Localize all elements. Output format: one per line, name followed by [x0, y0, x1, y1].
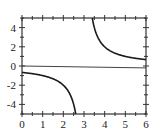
- y-tick-label: 2: [11, 41, 17, 53]
- x-tick-label: 0: [19, 118, 25, 130]
- x-tick-label: 3: [81, 118, 87, 130]
- zero-line: [22, 66, 146, 68]
- x-tick-label: 4: [102, 118, 108, 130]
- x-tick-label: 2: [61, 118, 67, 130]
- y-tick-label: -4: [7, 98, 17, 110]
- left-branch-curve: [22, 72, 76, 114]
- y-tick-label: -2: [7, 79, 16, 91]
- y-tick-label: 0: [11, 60, 17, 72]
- y-tick-label: 4: [11, 22, 17, 34]
- data-series: [22, 18, 146, 114]
- chart: 0123456-4-2024: [0, 0, 162, 139]
- right-branch-curve: [92, 18, 146, 60]
- x-tick-label: 6: [143, 118, 149, 130]
- x-tick-label: 1: [40, 118, 46, 130]
- x-tick-label: 5: [123, 118, 129, 130]
